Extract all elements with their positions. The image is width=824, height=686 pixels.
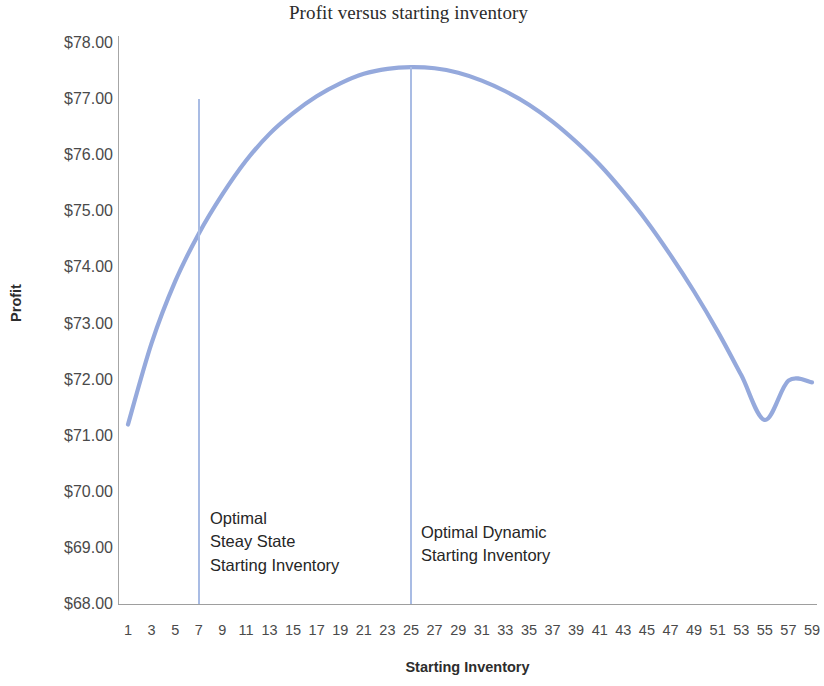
x-axis-tick-label: 5 (171, 622, 179, 638)
marker-line-optimal-dynamic (410, 67, 412, 604)
x-axis-tick-label: 11 (238, 622, 253, 638)
x-axis-tick-label: 23 (379, 622, 395, 638)
x-axis-title: Starting Inventory (118, 659, 817, 675)
y-axis-tick-labels: $78.00$77.00$76.00$75.00$74.00$73.00$72.… (0, 0, 113, 686)
y-axis-tick-label: $72.00 (5, 372, 113, 388)
x-axis-tick-label: 47 (662, 622, 678, 638)
x-axis-tick-label: 39 (568, 622, 584, 638)
marker-line-optimal-steady-state (198, 99, 200, 604)
x-axis-tick-label: 15 (285, 622, 301, 638)
y-axis-tick-label: $78.00 (5, 35, 113, 51)
annotation-optimal-steady-state: Optimal Steay State Starting Inventory (210, 507, 339, 577)
x-axis-tick-label: 27 (427, 622, 443, 638)
x-axis-tick-label: 59 (804, 622, 820, 638)
x-axis-tick-label: 55 (757, 622, 773, 638)
annotation-optimal-dynamic: Optimal Dynamic Starting Inventory (421, 521, 550, 568)
x-axis-tick-label: 17 (309, 622, 325, 638)
x-axis-tick-label: 57 (780, 622, 796, 638)
x-axis-tick-label: 45 (639, 622, 655, 638)
x-axis-tick-label: 51 (710, 622, 726, 638)
x-axis-tick-label: 41 (592, 622, 608, 638)
x-axis-tick-label: 37 (544, 622, 560, 638)
x-axis-tick-label: 7 (195, 622, 203, 638)
profit-curve-path (128, 67, 812, 424)
y-axis-tick-label: $74.00 (5, 259, 113, 275)
x-axis-tick-labels: 1357911131517192123252729313335373941434… (118, 622, 824, 646)
x-axis-tick-label: 49 (686, 622, 702, 638)
chart-title: Profit versus starting inventory (0, 2, 817, 24)
x-axis-tick-label: 1 (124, 622, 132, 638)
x-axis-tick-label: 43 (615, 622, 631, 638)
x-axis-tick-label: 53 (733, 622, 749, 638)
y-axis-tick-label: $71.00 (5, 428, 113, 444)
y-axis-tick-label: $70.00 (5, 484, 113, 500)
y-axis-tick-label: $76.00 (5, 147, 113, 163)
y-axis-tick-label: $75.00 (5, 203, 113, 219)
x-axis-tick-label: 9 (218, 622, 226, 638)
x-axis-tick-label: 33 (497, 622, 513, 638)
y-axis-tick-label: $69.00 (5, 540, 113, 556)
x-axis-tick-label: 13 (261, 622, 277, 638)
x-axis-tick-label: 29 (450, 622, 466, 638)
x-axis-tick-label: 3 (148, 622, 156, 638)
x-axis-tick-label: 19 (332, 622, 348, 638)
y-axis-tick-label: $73.00 (5, 316, 113, 332)
x-axis-tick-label: 21 (356, 622, 372, 638)
y-axis-tick-label: $68.00 (5, 596, 113, 612)
x-axis-tick-label: 25 (403, 622, 419, 638)
x-axis-tick-label: 35 (521, 622, 537, 638)
x-axis-tick-label: 31 (474, 622, 490, 638)
y-axis-tick-label: $77.00 (5, 91, 113, 107)
